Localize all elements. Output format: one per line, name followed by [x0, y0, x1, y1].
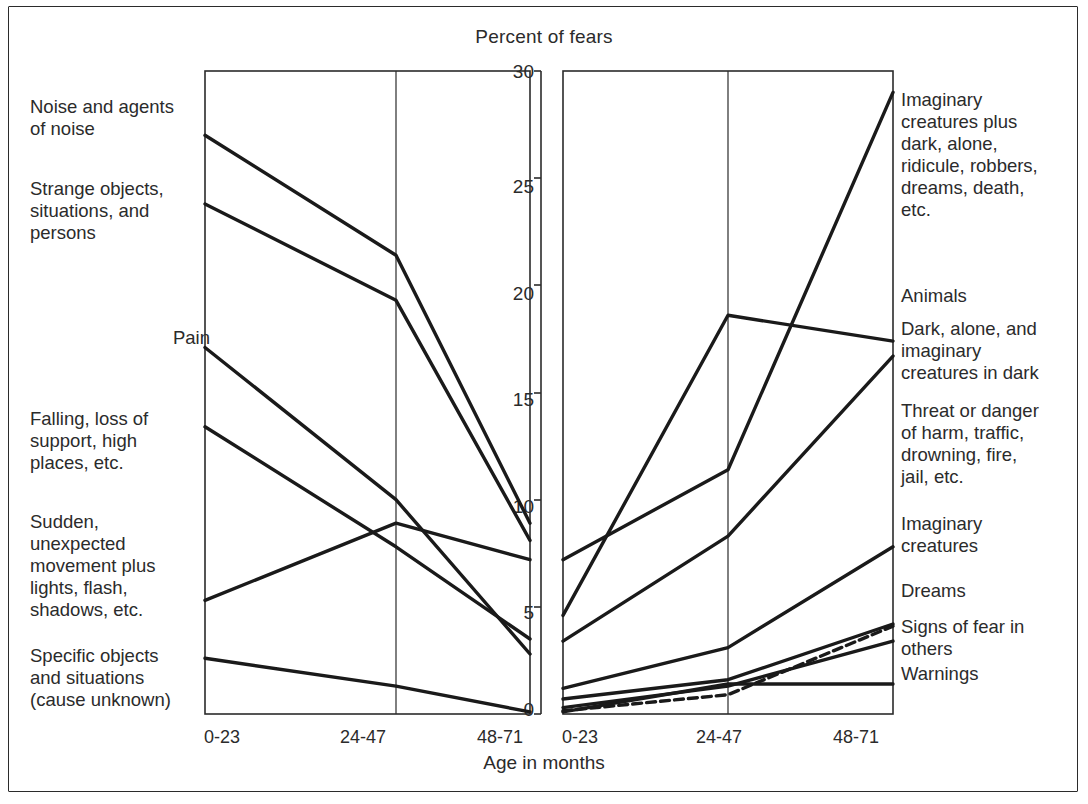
series-layer	[205, 92, 893, 712]
right-panel-frame	[563, 71, 893, 714]
panel-declining-fears	[205, 135, 530, 712]
series-line	[205, 658, 530, 712]
plot-canvas	[0, 0, 1088, 804]
series-line	[205, 523, 530, 600]
figure-root: Percent of fears Age in months 30 25 20 …	[0, 0, 1088, 804]
series-line	[205, 135, 530, 523]
y-axis-ticks	[534, 71, 541, 714]
series-line	[205, 348, 530, 655]
series-line	[205, 204, 530, 541]
